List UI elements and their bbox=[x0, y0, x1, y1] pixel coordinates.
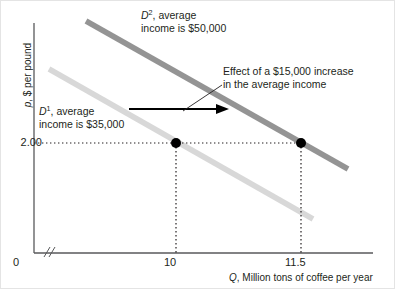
shift-annotation-line1: Effect of a $15,000 increase bbox=[223, 65, 354, 77]
y-axis-title-var: p bbox=[22, 102, 33, 108]
shift-annotation-line2: in the average income bbox=[223, 78, 326, 90]
x-axis-tick-115: 11.5 bbox=[285, 256, 306, 269]
curve-label-d2: D2, average income is $50,000 bbox=[141, 9, 226, 35]
chart-figure: D2, average income is $50,000 D1, averag… bbox=[0, 0, 395, 289]
x-axis-tick-10: 10 bbox=[164, 256, 176, 269]
x-axis-title-var: Q bbox=[229, 272, 237, 283]
curve-label-d1-suffix: , average bbox=[51, 105, 95, 117]
demand-curve-d1 bbox=[49, 69, 313, 219]
x-axis-title: Q, Million tons of coffee per year bbox=[229, 272, 373, 284]
shift-annotation-text: Effect of a $15,000 increase in the aver… bbox=[223, 65, 354, 91]
demand-curve-d2 bbox=[86, 21, 348, 169]
equilibrium-point-d2 bbox=[296, 138, 306, 148]
y-axis-title: p, $ per pound bbox=[22, 20, 34, 130]
axis-break-icon bbox=[44, 247, 55, 257]
curve-label-d1-line2: income is $35,000 bbox=[39, 118, 124, 130]
x-axis-tick-origin: 0 bbox=[13, 256, 19, 269]
y-axis-title-rest: , $ per pound bbox=[22, 43, 33, 102]
shift-arrow-icon bbox=[129, 104, 229, 114]
curve-label-d1: D1, average income is $35,000 bbox=[39, 105, 124, 131]
y-axis-tick-200: 2.00 bbox=[6, 136, 42, 149]
curve-label-d2-letter: D bbox=[141, 9, 149, 21]
curve-label-d1-letter: D bbox=[39, 105, 47, 117]
chart-plot-area bbox=[1, 1, 395, 289]
x-axis-title-rest: , Million tons of coffee per year bbox=[237, 272, 373, 283]
curve-label-d2-line2: income is $50,000 bbox=[141, 22, 226, 34]
equilibrium-point-d1 bbox=[171, 138, 181, 148]
curve-label-d2-suffix: , average bbox=[153, 9, 197, 21]
